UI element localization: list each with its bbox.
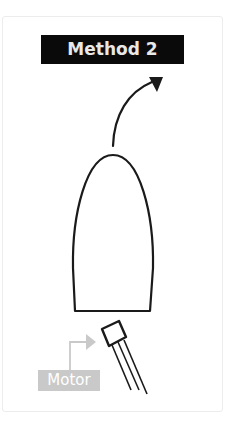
- motor-label: Motor: [38, 370, 100, 391]
- motor-component-icon: [102, 321, 147, 394]
- diagram-drawing: [0, 0, 231, 423]
- curved-arrow-icon: [113, 77, 163, 146]
- connector-arrow-icon: [70, 334, 96, 370]
- bullet-body-outline: [73, 155, 153, 311]
